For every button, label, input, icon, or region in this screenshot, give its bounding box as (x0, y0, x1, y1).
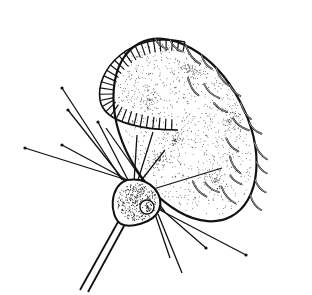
illustration (0, 0, 312, 295)
protozoa-drawing (0, 0, 312, 295)
